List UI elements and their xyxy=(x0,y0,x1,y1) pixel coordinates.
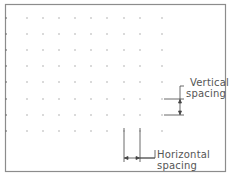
vertical-spacing-label-2: spacing xyxy=(186,88,226,99)
horizontal-spacing-label-2: spacing xyxy=(157,160,197,171)
grid-dots xyxy=(5,17,163,131)
vertical-spacing-label-1: Vertical xyxy=(190,77,229,88)
horizontal-spacing-label-1: Horizontal xyxy=(157,149,210,160)
vertical-spacing-dimension xyxy=(164,86,184,115)
horizontal-spacing-dimension xyxy=(124,128,155,162)
